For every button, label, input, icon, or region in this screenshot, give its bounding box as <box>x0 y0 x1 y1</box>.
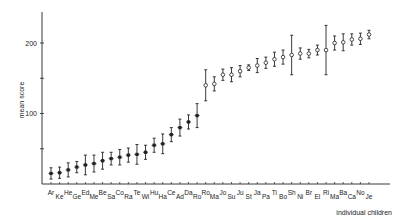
data-point <box>49 168 54 179</box>
open-marker <box>333 41 337 45</box>
category-label: Ra <box>124 193 133 200</box>
category-label: Ke <box>56 193 64 200</box>
category-label: Wi <box>142 193 150 200</box>
open-marker <box>298 52 302 56</box>
data-point <box>177 119 182 136</box>
category-label: Jo <box>219 189 226 196</box>
data-point <box>298 48 302 59</box>
category-label: Ju <box>237 189 244 196</box>
data-point <box>169 128 174 142</box>
data-point <box>160 134 165 154</box>
category-label: St <box>246 193 252 200</box>
data-point <box>91 155 96 172</box>
y-tick-label: 100 <box>25 110 37 117</box>
data-point <box>134 145 139 165</box>
category-label: Je <box>366 193 373 200</box>
data-point <box>350 34 354 45</box>
category-label: Ti <box>272 189 277 196</box>
open-marker <box>341 40 345 44</box>
category-label: Ce <box>167 189 176 196</box>
open-marker <box>255 64 259 68</box>
open-marker <box>204 84 208 88</box>
category-label: Da <box>184 189 193 196</box>
data-point <box>359 33 363 44</box>
scatter-chart: 100200 ArKeHeGeEdMeBeSaCoRaTeWiHuHaCeAdD… <box>0 0 409 221</box>
open-marker <box>238 69 242 73</box>
category-label: Ro <box>193 193 202 200</box>
data-point <box>333 36 337 50</box>
data-point <box>109 152 114 165</box>
data-point <box>230 68 234 82</box>
category-label: Sh <box>288 189 296 196</box>
category-label: Ad <box>176 193 184 200</box>
open-marker <box>316 48 320 52</box>
data-point <box>307 49 311 57</box>
data-point <box>66 163 71 177</box>
category-label: Te <box>134 189 141 196</box>
y-axis-title: mean score <box>18 82 25 119</box>
data-point <box>152 138 157 152</box>
data-point <box>126 148 131 162</box>
data-point <box>186 115 191 129</box>
category-label: Hu <box>150 189 159 196</box>
data-point <box>238 66 242 77</box>
data-point <box>255 59 259 73</box>
open-marker <box>350 38 354 42</box>
data-point <box>273 52 277 66</box>
data-point <box>143 145 148 159</box>
open-marker <box>230 73 234 77</box>
category-label: Ba <box>339 189 347 196</box>
open-marker <box>367 33 371 37</box>
data-point <box>316 45 320 55</box>
data-point <box>195 104 200 128</box>
data-point <box>221 69 225 80</box>
category-label: Me <box>89 193 98 200</box>
data-point <box>74 161 79 172</box>
open-marker <box>307 52 311 56</box>
open-marker <box>273 57 277 61</box>
category-label: Ma <box>330 193 339 200</box>
category-label: Su <box>228 193 236 200</box>
open-marker <box>281 55 285 59</box>
data-point <box>100 152 105 169</box>
data-point <box>204 70 208 101</box>
open-marker <box>290 53 294 57</box>
category-label: Ni <box>297 193 303 200</box>
category-label: Ja <box>254 189 261 196</box>
data-points <box>49 25 371 179</box>
category-label: Be <box>99 189 107 196</box>
open-marker <box>264 61 268 65</box>
data-point <box>117 149 122 165</box>
open-marker <box>324 48 328 52</box>
category-label: Ar <box>48 189 55 196</box>
category-label: Br <box>306 189 313 196</box>
category-label: Ma <box>210 193 219 200</box>
category-label: Ha <box>159 193 168 200</box>
open-marker <box>359 37 363 41</box>
category-label: No <box>356 189 365 196</box>
category-label: Bo <box>279 193 287 200</box>
category-label: Ri <box>323 189 329 196</box>
data-point <box>281 50 285 64</box>
open-marker <box>221 73 225 77</box>
category-label: He <box>64 189 73 196</box>
data-point <box>367 30 371 38</box>
data-point <box>341 34 345 51</box>
category-labels: ArKeHeGeEdMeBeSaCoRaTeWiHuHaCeAdDaRoRoMa… <box>48 189 373 200</box>
y-ticks: 100200 <box>25 40 44 149</box>
open-marker <box>212 82 216 86</box>
data-point <box>83 155 88 175</box>
data-point <box>290 35 294 74</box>
category-label: Sa <box>107 193 115 200</box>
data-point <box>247 65 251 71</box>
category-label: Pa <box>262 193 270 200</box>
open-marker <box>247 66 251 70</box>
data-point <box>324 25 328 74</box>
category-label: Ge <box>72 193 81 200</box>
data-point <box>264 57 268 68</box>
category-label: Ca <box>348 193 357 200</box>
data-point <box>212 77 216 91</box>
category-label: El <box>315 193 321 200</box>
y-tick-label: 200 <box>25 40 37 47</box>
x-axis-title: individual children <box>336 209 392 216</box>
